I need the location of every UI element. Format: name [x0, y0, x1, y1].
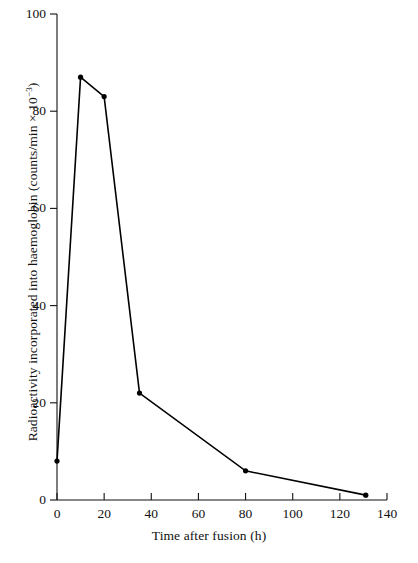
y-axis-title-prefix: Radioactivity incorporated into haemoglo… [25, 97, 40, 441]
y-axis-tick-label: 40 [6, 299, 46, 313]
y-axis-tick-label: 0 [6, 493, 46, 507]
y-axis-title: Radioactivity incorporated into haemoglo… [26, 12, 40, 512]
y-axis-title-exponent: −3 [24, 87, 34, 97]
x-axis-tick-label: 80 [226, 507, 266, 521]
x-axis-tick-label: 40 [131, 507, 171, 521]
x-axis-tick-label: 140 [367, 507, 407, 521]
x-axis-tick-label: 120 [320, 507, 360, 521]
chart-plot-area [0, 0, 418, 563]
x-axis-title: Time after fusion (h) [0, 528, 418, 544]
data-point-marker [243, 468, 248, 473]
data-markers [54, 75, 368, 498]
x-axis-ticks [57, 493, 387, 500]
data-point-marker [54, 459, 59, 464]
y-axis-tick-label: 20 [6, 396, 46, 410]
data-point-marker [78, 75, 83, 80]
data-point-marker [102, 94, 107, 99]
x-axis-tick-label: 20 [84, 507, 124, 521]
data-point-marker [137, 390, 142, 395]
data-point-marker [363, 493, 368, 498]
y-axis-ticks [50, 14, 57, 500]
x-axis-tick-label: 0 [37, 507, 77, 521]
x-axis-tick-label: 60 [178, 507, 218, 521]
y-axis-tick-label: 80 [6, 104, 46, 118]
data-line [57, 77, 366, 495]
x-axis-tick-label: 100 [273, 507, 313, 521]
y-axis-tick-label: 60 [6, 201, 46, 215]
y-axis-tick-label: 100 [6, 7, 46, 21]
y-axis-title-suffix: ) [25, 83, 40, 88]
chart-figure: Radioactivity incorporated into haemoglo… [0, 0, 418, 563]
